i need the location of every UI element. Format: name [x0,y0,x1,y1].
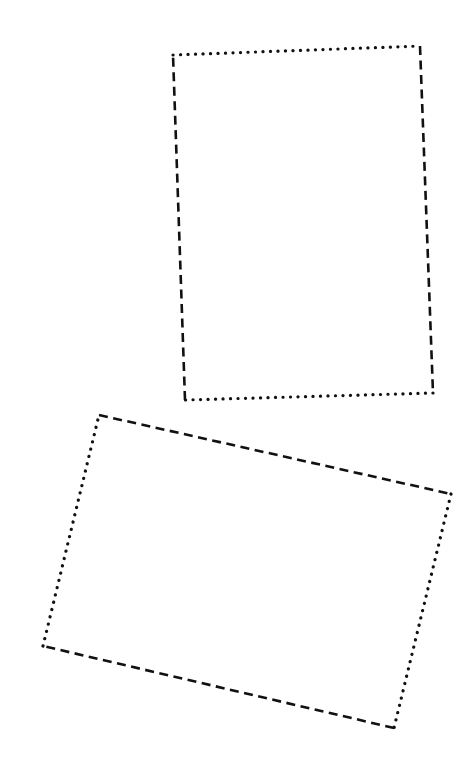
tilted-quadrilateral-top-edge [99,415,451,494]
upright-quadrilateral-top-edge [173,46,420,55]
tilted-quadrilateral-left-edge [43,415,99,646]
shape-tilted-quadrilateral [43,415,451,728]
upright-quadrilateral-right-edge [420,46,433,393]
tilted-quadrilateral-bottom-edge [43,646,394,728]
upright-quadrilateral-bottom-edge [185,393,433,400]
shape-upright-quadrilateral [173,46,433,400]
diagram-canvas [0,0,476,768]
tilted-quadrilateral-right-edge [394,494,451,728]
upright-quadrilateral-left-edge [173,55,185,400]
